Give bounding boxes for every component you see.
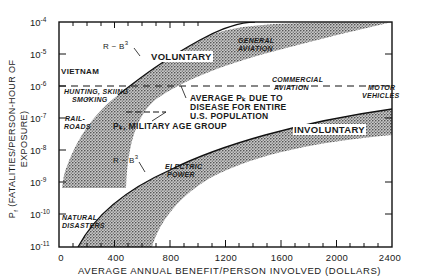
natural-disasters-label-line2: DISASTERS	[62, 222, 105, 230]
y-tick-1e-11: 10-11	[30, 240, 54, 252]
military-age-label: Pₖ, MILITARY AGE GROUP	[113, 121, 227, 131]
y-tick-1e-7: 10-7	[30, 112, 54, 124]
rb-lower-leader	[139, 162, 145, 172]
natural-disasters-label-line1: NATURAL	[62, 214, 97, 222]
electric-power-label-line2: POWER	[167, 171, 195, 179]
y-tick-1e-10: 10-10	[30, 208, 54, 220]
commercial-aviation-label-line1: COMMERCIAL	[272, 76, 323, 84]
y-tick-1e-5: 10-5	[30, 48, 54, 60]
x-tick-2000: 2000	[326, 252, 348, 263]
x-tick-800: 800	[163, 252, 180, 263]
x-tick-0: 0	[58, 252, 64, 263]
x-tick-2400: 2400	[379, 252, 401, 263]
motor-vehicles-label-line2: VEHICLES	[362, 92, 399, 100]
y-tick-1e-9: 10-9	[30, 176, 54, 188]
y-tick-1e-8: 10-8	[30, 144, 54, 156]
electric-power-label-line1: ELECTRIC	[165, 163, 202, 171]
x-tick-1600: 1600	[271, 252, 293, 263]
risk-benefit-chart	[0, 0, 435, 277]
military-leader	[152, 112, 166, 121]
rb-upper-leader	[134, 48, 140, 56]
x-axis-label: AVERAGE ANNUAL BENEFIT/PERSON INVOLVED (…	[78, 265, 381, 276]
vietnam-label: VIETNAM	[61, 67, 99, 76]
general-aviation-label-line2: AVIATION	[238, 45, 273, 53]
general-aviation-label-line1: GENERAL	[238, 37, 274, 45]
r-b3-lower-label: R ~ B3	[113, 154, 138, 165]
smoking-label: SMOKING	[72, 96, 108, 104]
disease-label-line3: U.S. POPULATION	[190, 111, 269, 121]
involuntary-label: INVOLUNTARY	[293, 124, 366, 135]
voluntary-label: VOLUNTARY	[150, 51, 213, 62]
railroads-label-line1: RAIL-	[65, 115, 85, 123]
motor-vehicles-label-line1: MOTOR	[368, 84, 395, 92]
hunting-skiing-label: HUNTING, SKIING	[64, 88, 128, 96]
disease-leader	[181, 86, 186, 98]
y-tick-1e-4: 10-4	[30, 16, 54, 28]
railroads-label-line2: ROADS	[64, 123, 91, 131]
x-tick-400: 400	[108, 252, 125, 263]
r-b3-upper-label: R ~ B3	[103, 40, 128, 51]
y-axis-label: Pf (FATALITIES/PERSON-HOUR OF EXPOSURE)	[7, 39, 29, 239]
commercial-aviation-label-line2: AVIATION	[274, 84, 309, 92]
y-tick-1e-6: 10-6	[30, 80, 54, 92]
x-tick-1200: 1200	[215, 252, 237, 263]
